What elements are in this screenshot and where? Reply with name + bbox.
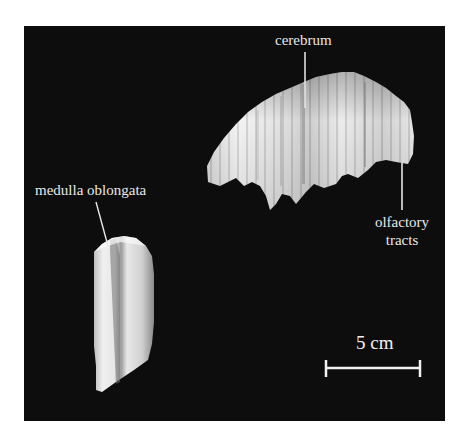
olfactory-tracts-label: olfactory tracts bbox=[372, 214, 432, 249]
cerebrum-shape bbox=[207, 72, 414, 210]
medulla-shape bbox=[94, 236, 154, 392]
olfactory-tracts-label-line1: olfactory bbox=[372, 214, 432, 231]
medulla-oblongata-label: medulla oblongata bbox=[35, 182, 146, 199]
olfactory-tracts-label-line2: tracts bbox=[372, 232, 432, 249]
scale-bar bbox=[326, 360, 420, 377]
medulla-leader-line bbox=[96, 202, 108, 246]
brain-reconstruction-panel: cerebrum medulla oblongata olfactory tra… bbox=[24, 26, 445, 421]
cerebrum-label: cerebrum bbox=[275, 32, 332, 49]
scale-bar-label: 5 cm bbox=[356, 333, 393, 353]
